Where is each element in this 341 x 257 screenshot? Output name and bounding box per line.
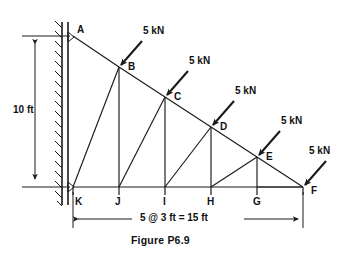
joint-label-g: G xyxy=(253,197,261,207)
joint-label-j: J xyxy=(115,197,121,207)
joint-label-b: B xyxy=(128,62,135,72)
member-diagonal-h-e xyxy=(211,157,257,187)
fixed-wall-support xyxy=(55,21,74,206)
member-top-chord xyxy=(73,36,303,187)
load-label-b: 5 kN xyxy=(143,26,164,36)
load-label-c: 5 kN xyxy=(189,56,210,66)
joint-label-e: E xyxy=(266,152,273,162)
load-label-f: 5 kN xyxy=(309,146,330,156)
joint-label-c: C xyxy=(174,92,181,102)
joint-label-d: D xyxy=(220,122,227,132)
load-label-e: 5 kN xyxy=(281,116,302,126)
joint-label-k: K xyxy=(75,197,82,207)
load-arrows xyxy=(121,41,326,185)
member-diagonal-k-b xyxy=(73,67,119,187)
figure-p6-9: A B C D E F K J I H G 5 kN 5 kN 5 kN 5 k… xyxy=(0,0,341,257)
member-diagonal-j-c xyxy=(119,97,165,187)
truss-members xyxy=(73,36,303,187)
member-diagonal-i-d xyxy=(165,127,211,187)
joint-label-i: I xyxy=(163,197,166,207)
joint-label-f: F xyxy=(311,186,317,196)
joint-label-a: A xyxy=(77,25,84,35)
joint-label-h: H xyxy=(207,197,214,207)
figure-caption: Figure P6.9 xyxy=(131,235,190,246)
height-dimension-label: 10 ft xyxy=(13,105,34,115)
load-label-d: 5 kN xyxy=(235,86,256,96)
span-dimension-label: 5 @ 3 ft = 15 ft xyxy=(140,213,208,223)
load-arrow-f xyxy=(305,161,326,185)
